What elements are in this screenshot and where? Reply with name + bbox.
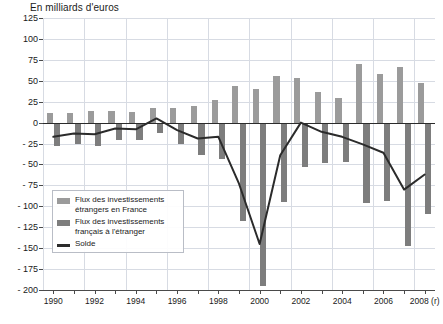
x-axis-tick-mark: [156, 290, 157, 294]
x-axis-tick-mark: [425, 290, 426, 294]
x-axis-tick-mark: [404, 290, 405, 294]
y-axis-tick-label: - 50: [0, 159, 38, 169]
x-axis-tick-mark: [342, 290, 343, 294]
legend-item-outward: Flux des investissementsfrançais à l'étr…: [57, 217, 179, 237]
chart-title: En milliards d'euros: [30, 2, 119, 13]
x-axis-tick-mark: [280, 290, 281, 294]
x-axis-tick-mark: [74, 290, 75, 294]
x-axis-tick-label: 1992: [85, 296, 104, 306]
legend-item-inward: Flux des investissementsétrangers en Fra…: [57, 195, 179, 215]
x-axis-tick-mark: [322, 290, 323, 294]
x-axis-tick-label: 2000: [250, 296, 269, 306]
x-axis-tick-label: 1990: [44, 296, 63, 306]
x-axis-tick-label: 2006: [374, 296, 393, 306]
y-axis-tick-label: - 125: [0, 222, 38, 232]
x-axis-tick-label: 1998: [209, 296, 228, 306]
y-axis-tick-label: - 175: [0, 264, 38, 274]
legend-swatch-solde-icon: [57, 244, 70, 247]
y-axis-tick-label: 100: [0, 34, 38, 44]
x-axis-tick-label: 1996: [168, 296, 187, 306]
legend-label-inward: Flux des investissementsétrangers en Fra…: [75, 195, 164, 215]
y-axis-tick-label: - 100: [0, 201, 38, 211]
x-axis-tick-label: 2002: [291, 296, 310, 306]
legend-swatch-inward-icon: [57, 198, 70, 204]
chart-legend: Flux des investissementsétrangers en Fra…: [52, 190, 184, 253]
x-axis-tick-mark: [136, 290, 137, 294]
y-axis-tick-label: 75: [0, 55, 38, 65]
legend-swatch-outward-icon: [57, 220, 70, 226]
y-axis-tick-label: 0: [0, 118, 38, 128]
x-axis-tick-mark: [301, 290, 302, 294]
x-axis-tick-label: 1994: [126, 296, 145, 306]
y-axis-tick-label: - 75: [0, 180, 38, 190]
y-axis-tick-label: - 150: [0, 243, 38, 253]
chart-container: En milliards d'euros 1251007550250- 25- …: [0, 0, 443, 324]
y-axis-tick-label: - 200: [0, 285, 38, 295]
y-axis-tick-label: - 25: [0, 139, 38, 149]
x-axis-tick-mark: [218, 290, 219, 294]
legend-item-solde: Solde: [57, 239, 179, 249]
y-axis-tick-label: 125: [0, 13, 38, 23]
x-axis-tick-mark: [177, 290, 178, 294]
legend-label-outward: Flux des investissementsfrançais à l'étr…: [75, 217, 164, 237]
x-axis-tick-mark: [115, 290, 116, 294]
x-axis-tick-mark: [260, 290, 261, 294]
x-axis-tick-label: 2008 (r): [410, 296, 440, 306]
x-axis-tick-mark: [198, 290, 199, 294]
x-axis-tick-mark: [53, 290, 54, 294]
x-axis-tick-mark: [239, 290, 240, 294]
legend-label-solde: Solde: [75, 239, 95, 249]
y-axis-tick-label: 50: [0, 76, 38, 86]
x-axis-tick-label: 2004: [333, 296, 352, 306]
x-axis-tick-mark: [95, 290, 96, 294]
x-axis-tick-mark: [383, 290, 384, 294]
x-axis-tick-mark: [363, 290, 364, 294]
y-axis-tick-label: 25: [0, 97, 38, 107]
